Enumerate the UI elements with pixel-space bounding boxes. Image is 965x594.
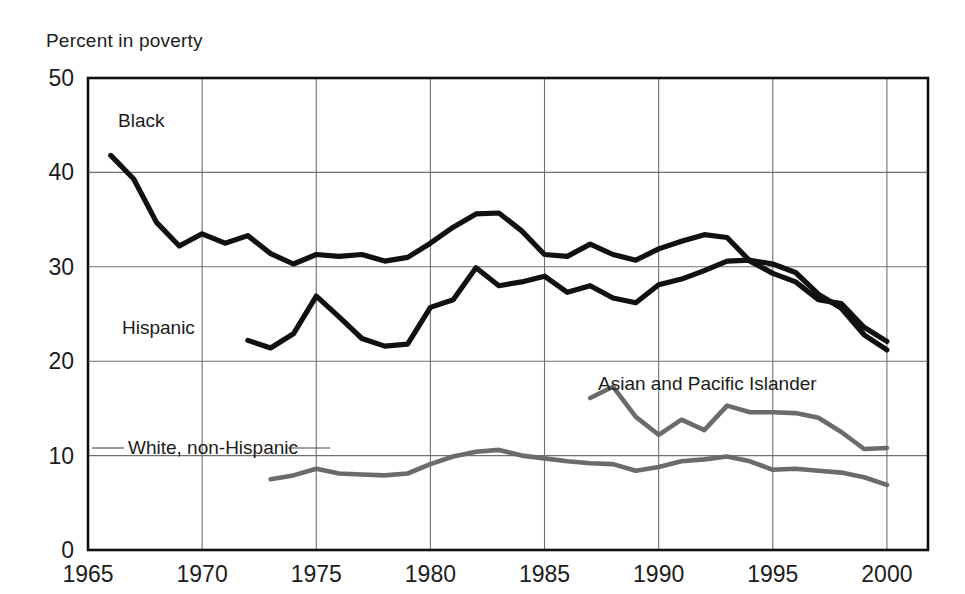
series-label-black: Black bbox=[118, 110, 165, 131]
x-tick-label: 1985 bbox=[519, 561, 570, 587]
series-label-white-non-hispanic: White, non-Hispanic bbox=[128, 437, 298, 458]
series-line-hispanic bbox=[248, 260, 887, 350]
series-line-asian-and-pacific-islander bbox=[590, 387, 887, 449]
x-tick-label: 1975 bbox=[291, 561, 342, 587]
series-line-black bbox=[111, 155, 887, 341]
x-tick-label: 1965 bbox=[62, 561, 113, 587]
series-label-asian-and-pacific-islander: Asian and Pacific Islander bbox=[598, 373, 817, 394]
plot-frame bbox=[88, 78, 928, 550]
chart-canvas: 01020304050 1965197019751980198519901995… bbox=[0, 0, 965, 594]
y-axis-tick-labels: 01020304050 bbox=[48, 65, 74, 563]
x-tick-label: 1980 bbox=[405, 561, 456, 587]
y-tick-label: 10 bbox=[48, 443, 74, 469]
y-tick-label: 0 bbox=[61, 537, 74, 563]
series-labels-group: BlackHispanicAsian and Pacific IslanderW… bbox=[118, 110, 817, 458]
x-tick-label: 1970 bbox=[177, 561, 228, 587]
y-tick-label: 30 bbox=[48, 254, 74, 280]
series-group bbox=[111, 155, 887, 485]
x-tick-label: 1995 bbox=[747, 561, 798, 587]
series-label-hispanic: Hispanic bbox=[122, 317, 195, 338]
y-tick-label: 40 bbox=[48, 159, 74, 185]
gridlines-group bbox=[88, 78, 928, 550]
y-tick-label: 50 bbox=[48, 65, 74, 91]
y-tick-label: 20 bbox=[48, 348, 74, 374]
x-tick-label: 2000 bbox=[861, 561, 912, 587]
x-axis-tick-labels: 19651970197519801985199019952000 bbox=[62, 561, 912, 587]
poverty-rate-line-chart: Percent in poverty 01020304050 196519701… bbox=[0, 0, 965, 594]
x-tick-label: 1990 bbox=[633, 561, 684, 587]
